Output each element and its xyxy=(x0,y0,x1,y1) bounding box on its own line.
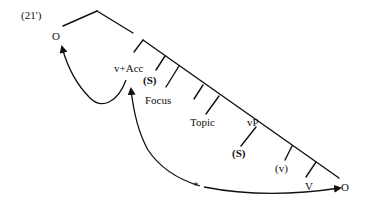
arrow-v-acc-to-object xyxy=(62,47,126,104)
syntax-tree-diagram: (21') O v+Acc (S) Focus Topic vP (S) (v)… xyxy=(0,0,368,208)
topic-spec-branch xyxy=(194,85,203,99)
node-verb: V xyxy=(305,180,313,192)
vp-subject-branch xyxy=(241,127,256,146)
topic-branch xyxy=(206,96,219,114)
example-number: (21') xyxy=(21,9,42,22)
node-topic: Topic xyxy=(190,116,215,128)
root-left-branch xyxy=(63,11,97,26)
focus-branch xyxy=(166,66,179,87)
node-subject-vp: (S) xyxy=(232,147,246,160)
node-object-low: O xyxy=(341,181,349,193)
little-v-branch xyxy=(285,146,292,160)
node-focus: Focus xyxy=(145,94,171,106)
v-acc-branch xyxy=(134,40,143,52)
node-object-high: O xyxy=(52,30,60,42)
verb-branch xyxy=(306,162,316,177)
root-right-branch xyxy=(97,11,133,33)
node-v-acc: v+Acc xyxy=(114,62,144,74)
blocked-movement-mark: * xyxy=(193,179,199,191)
node-subject-focus: (S) xyxy=(143,74,157,87)
focus-subject-branch xyxy=(156,56,165,70)
node-vp: vP xyxy=(247,116,259,128)
tree-edges xyxy=(63,11,339,178)
node-little-v: (v) xyxy=(275,162,288,175)
arrow-to-object-low xyxy=(204,187,340,193)
